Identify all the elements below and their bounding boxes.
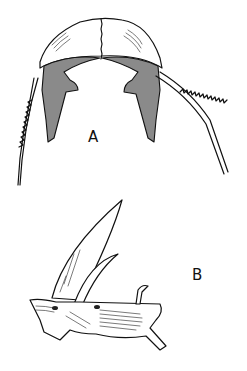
figure-a [18,18,228,185]
figure-label-a: A [88,130,98,145]
figure-b [30,200,166,350]
socket-left [52,306,58,310]
figure-drawing [0,0,247,371]
spine-left [18,78,38,185]
spine-right [156,72,228,174]
figure-canvas: A B [0,0,247,371]
small-hook [136,286,148,305]
socket-right [94,305,100,309]
figure-label-b: B [192,268,202,283]
arch-right [102,57,160,142]
